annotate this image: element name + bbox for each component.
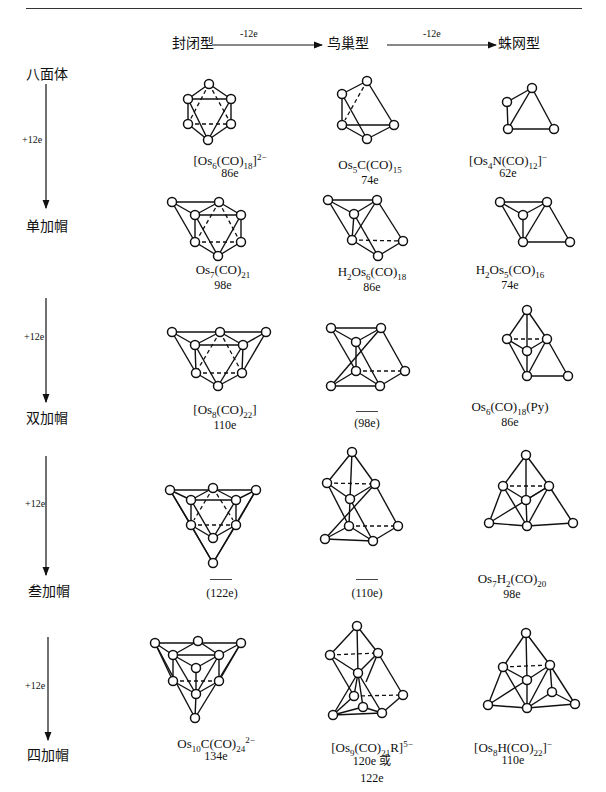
cluster-os7-capped-octahedron bbox=[168, 198, 246, 261]
cluster-os4-butterfly bbox=[503, 84, 559, 134]
cluster-nido-bicapped bbox=[327, 324, 410, 391]
cluster-os9-nido bbox=[326, 622, 408, 720]
cluster-os5-arachno bbox=[496, 198, 575, 247]
cluster-os6-capped-square-pyramid bbox=[324, 196, 408, 261]
cluster-os8-arachno bbox=[484, 629, 580, 713]
cluster-closo-tricapped bbox=[166, 484, 261, 568]
cluster-os10-tetracapped bbox=[151, 637, 246, 723]
cluster-diagram-canvas bbox=[0, 0, 606, 792]
cluster-os7-arachno bbox=[485, 451, 578, 531]
cluster-nido-tricapped bbox=[321, 448, 403, 546]
cluster-os6-arachno bbox=[503, 306, 573, 381]
cluster-os5-square-pyramid bbox=[338, 77, 399, 144]
cluster-os6-octahedron bbox=[184, 80, 236, 145]
cluster-os8-bicapped-octahedron bbox=[168, 328, 271, 391]
